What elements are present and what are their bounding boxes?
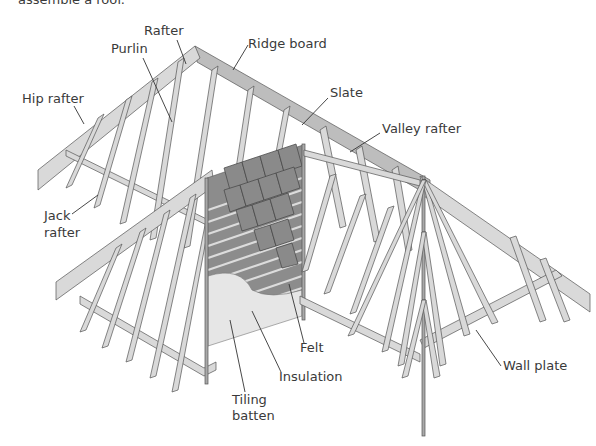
label-hip-rafter: Hip rafter	[22, 91, 85, 106]
front-left-frame	[56, 170, 216, 392]
label-wall-plate: Wall plate	[503, 358, 567, 373]
roof-framing-diagram: assemble a roof.	[0, 0, 596, 446]
right-eave-board	[420, 176, 590, 312]
label-ridge-board: Ridge board	[248, 36, 327, 51]
hip-rafter	[38, 46, 200, 190]
label-jack-rafter-line2: rafter	[44, 225, 81, 240]
label-tiling-batten-line2: batten	[232, 408, 275, 423]
label-rafter: Rafter	[144, 23, 184, 38]
cutaway-edge-left	[205, 178, 208, 384]
caption-fragment: assemble a roof.	[18, 0, 125, 7]
label-purlin: Purlin	[111, 41, 148, 56]
front-right-frame	[300, 150, 590, 436]
label-slate: Slate	[330, 85, 363, 100]
label-valley-rafter: Valley rafter	[382, 121, 462, 136]
label-tiling-batten-line1: Tiling	[231, 392, 267, 407]
cutaway-edge-right	[302, 144, 305, 320]
wall-plate-left	[80, 296, 216, 376]
hip-jack-rafters	[302, 174, 570, 378]
roof-covering-cutaway	[205, 144, 305, 384]
label-insulation: Insulation	[279, 369, 343, 384]
label-jack-rafter-line1: Jack	[43, 208, 71, 223]
